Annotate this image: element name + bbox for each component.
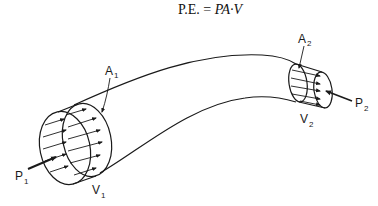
label-a1: A 1 [105, 64, 119, 80]
label-v2: V 2 [300, 112, 314, 129]
outlet-ellipse-rear [286, 63, 309, 103]
svg-text:V: V [300, 112, 308, 126]
label-v1: V 1 [92, 183, 106, 200]
tube-bottom-edge [100, 97, 296, 173]
svg-text:2: 2 [364, 104, 369, 113]
svg-text:1: 1 [101, 191, 106, 200]
label-a2: A 2 [298, 32, 312, 48]
svg-text:1: 1 [24, 177, 29, 186]
svg-text:2: 2 [309, 120, 314, 129]
svg-text:P: P [15, 169, 23, 183]
label-p1: P 1 [15, 169, 29, 186]
p2-pressure-arrow [326, 91, 352, 101]
svg-text:V: V [92, 183, 100, 197]
inlet-ellipse-front [56, 99, 118, 181]
label-p2: P 2 [355, 96, 369, 113]
a2-pointer [299, 46, 304, 68]
tube [33, 55, 335, 190]
a1-pointer [102, 78, 110, 112]
flow-tube-diagram: A 1 A 2 P 1 P 2 V 1 V 2 [0, 0, 378, 206]
svg-text:1: 1 [114, 71, 119, 80]
tube-top-edge [74, 55, 296, 105]
svg-text:A: A [105, 64, 113, 78]
svg-text:2: 2 [307, 39, 312, 48]
svg-text:P: P [355, 96, 363, 110]
svg-text:A: A [298, 32, 306, 46]
